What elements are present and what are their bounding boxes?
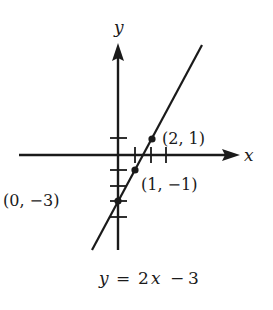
svg-text:3: 3: [188, 268, 199, 288]
linear-equation-graph: y x (2, 1) (1, −1) (0, −3) y = 2 x − 3: [0, 0, 273, 310]
svg-text:y: y: [98, 268, 109, 288]
y-axis: [112, 43, 124, 250]
point-0-neg3: [114, 197, 121, 204]
y-axis-label: y: [113, 17, 124, 37]
point-label-2-1: (2, 1): [162, 129, 205, 148]
point-label-0-neg3: (0, −3): [3, 191, 59, 210]
svg-text:2: 2: [138, 268, 149, 288]
x-axis-label: x: [244, 145, 254, 165]
svg-text:x: x: [151, 268, 161, 288]
graph-canvas: y x (2, 1) (1, −1) (0, −3) y = 2 x − 3: [0, 0, 273, 310]
equation-caption: y = 2 x − 3: [98, 268, 199, 288]
svg-text:=: =: [116, 268, 130, 288]
point-label-1-neg1: (1, −1): [141, 175, 197, 194]
point-1-neg1: [131, 166, 138, 173]
x-axis: [19, 149, 240, 161]
point-2-1: [148, 135, 155, 142]
svg-text:−: −: [170, 268, 184, 288]
